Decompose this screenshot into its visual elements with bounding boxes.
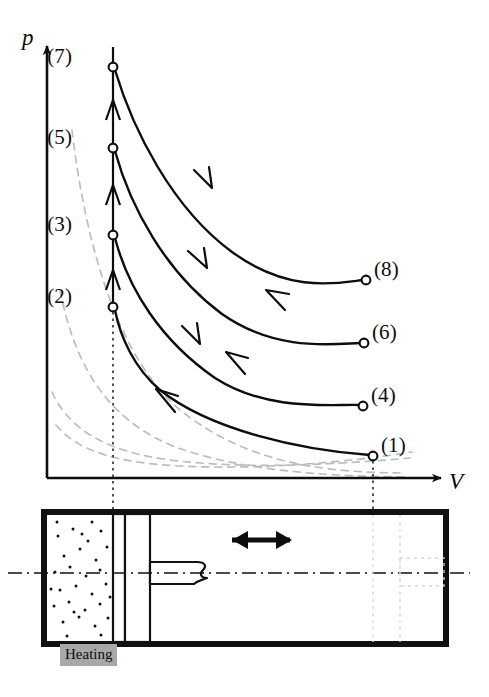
p-axis-label: p — [22, 26, 34, 49]
figure-root: p V (7) (5) (3) (2) (8) (6) (4) (1) Heat… — [0, 0, 489, 697]
piston-face — [125, 514, 150, 642]
piston-head — [113, 514, 125, 642]
state-label-7: (7) — [47, 46, 72, 67]
gas-chamber — [47, 515, 113, 641]
v-axis-label: V — [449, 470, 463, 493]
state-label-4: (4) — [371, 385, 396, 406]
state-label-2: (2) — [47, 286, 72, 307]
state-label-3: (3) — [47, 214, 72, 235]
state-label-5: (5) — [47, 127, 72, 148]
heating-label: Heating — [60, 644, 117, 666]
state-label-8: (8) — [374, 259, 399, 280]
state-label-1: (1) — [381, 435, 406, 456]
apparatus-layer — [0, 0, 489, 697]
state-label-6: (6) — [372, 322, 397, 343]
